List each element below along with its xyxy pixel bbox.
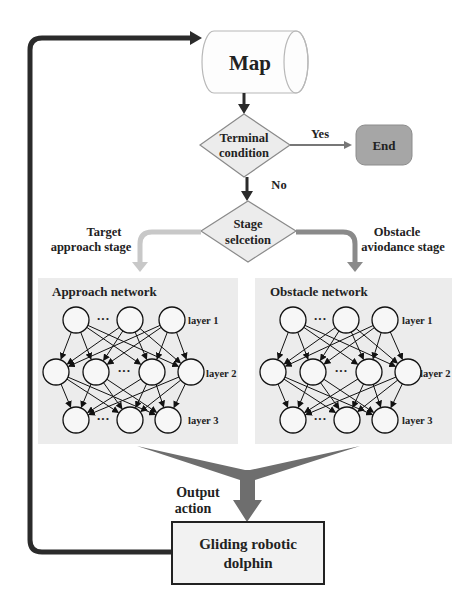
terminal-label-line1: Terminal <box>220 131 269 145</box>
approach-neuron-layer1 <box>117 307 143 333</box>
target-stage-label-line2: approach stage <box>51 240 132 254</box>
obstacle-neuron-layer1 <box>372 307 398 333</box>
approach-network-panel: Approach network ········· layer 1 layer… <box>38 278 238 444</box>
approach-layer2-ellipsis: ··· <box>117 363 130 378</box>
approach-neuron-layer3 <box>155 407 181 433</box>
obstacle-stage-label-line1: Obstacle <box>374 225 421 239</box>
map-label: Map <box>229 51 271 75</box>
approach-layer3-ellipsis: ··· <box>96 411 109 426</box>
obstacle-neuron-layer3 <box>280 407 306 433</box>
approach-layer3-label: layer 3 <box>188 415 218 426</box>
terminal-label-line2: condition <box>219 146 269 160</box>
obstacle-neuron-layer2 <box>395 359 421 385</box>
obstacle-neuron-layer1 <box>280 307 306 333</box>
obstacle-layer1-ellipsis: ··· <box>313 311 326 326</box>
approach-neuron-layer1 <box>159 307 185 333</box>
map-node: Map <box>202 31 308 93</box>
dolphin-label-line1: Gliding robotic <box>199 536 297 552</box>
stage-label-line1: Stage <box>233 217 263 231</box>
output-merge-arrow <box>137 446 360 522</box>
approach-layer2-label: layer 2 <box>206 368 236 379</box>
obstacle-layer1-label: layer 1 <box>402 315 432 326</box>
obstacle-network-title: Obstacle network <box>270 284 369 299</box>
obstacle-neuron-layer2 <box>300 359 326 385</box>
approach-network-title: Approach network <box>52 284 158 299</box>
obstacle-neuron-layer2 <box>356 359 382 385</box>
target-stage-label-line1: Target <box>87 225 123 239</box>
end-node: End <box>356 125 412 165</box>
no-label: No <box>271 178 286 192</box>
dolphin-label-line2: dolphin <box>223 555 273 571</box>
obstacle-layer3-ellipsis: ··· <box>313 411 326 426</box>
arrow-target-approach <box>140 232 201 262</box>
stage-selection-node: Stage selcetion <box>201 201 296 262</box>
terminal-condition-node: Terminal condition <box>200 114 290 177</box>
approach-layer1-label: layer 1 <box>188 315 218 326</box>
obstacle-network-panel: Obstacle network ········· layer 1 layer… <box>255 278 452 444</box>
arrowhead-no-to-stage <box>241 191 253 201</box>
arrowhead-target-approach <box>132 262 148 272</box>
stage-label-line2: selcetion <box>225 233 271 247</box>
obstacle-neuron-layer2 <box>260 359 286 385</box>
obstacle-neuron-layer1 <box>333 307 359 333</box>
obstacle-layer3-label: layer 3 <box>402 415 432 426</box>
approach-neuron-layer2 <box>178 359 204 385</box>
output-action-label-line1: Output <box>176 485 220 500</box>
approach-layer1-ellipsis: ··· <box>96 311 109 326</box>
output-action-label-line2: action <box>175 501 212 516</box>
arrowhead-map-to-terminal <box>238 104 250 114</box>
yes-label: Yes <box>311 127 329 141</box>
approach-neuron-layer2 <box>83 359 109 385</box>
obstacle-layer2-ellipsis: ··· <box>334 363 347 378</box>
end-label: End <box>372 138 396 153</box>
arrow-obstacle-avoidance <box>296 232 355 262</box>
approach-neuron-layer2 <box>43 359 69 385</box>
approach-neuron-layer3 <box>117 407 143 433</box>
approach-neuron-layer2 <box>139 359 165 385</box>
obstacle-layer2-label: layer 2 <box>420 368 450 379</box>
flowchart-canvas: Map Terminal condition Yes End No Stage … <box>0 0 472 607</box>
approach-neuron-layer3 <box>63 407 89 433</box>
obstacle-neuron-layer3 <box>334 407 360 433</box>
arrowhead-obstacle-avoidance <box>347 262 363 272</box>
obstacle-stage-label-line2: aviodance stage <box>361 240 445 254</box>
approach-neuron-layer1 <box>63 307 89 333</box>
dolphin-node: Gliding robotic dolphin <box>172 522 324 584</box>
feedback-loop-arrowhead <box>190 31 202 45</box>
obstacle-neuron-layer3 <box>372 407 398 433</box>
